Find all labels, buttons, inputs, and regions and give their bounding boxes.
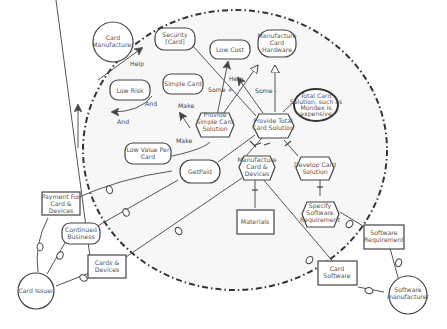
svg-text:Devices: Devices bbox=[95, 266, 119, 273]
svg-text:Manufacturer: Manufacturer bbox=[92, 41, 134, 48]
svg-text:Card: Card bbox=[141, 153, 156, 160]
resource-cards-devices[interactable]: Cards & Devices bbox=[88, 255, 126, 278]
svg-text:Hardware: Hardware bbox=[262, 46, 292, 53]
link-label-help-1: Help bbox=[130, 60, 144, 68]
svg-text:Devices: Devices bbox=[49, 207, 73, 214]
svg-text:[Card]: [Card] bbox=[165, 38, 184, 45]
task-provide-total-card-solution[interactable]: Provide Total Card Solution bbox=[252, 114, 294, 138]
resource-card-software[interactable]: Card Software bbox=[318, 261, 357, 285]
svg-text:Card Solution: Card Solution bbox=[252, 124, 294, 131]
softgoal-simple-card[interactable]: Simple Card bbox=[163, 74, 203, 94]
svg-text:Card &: Card & bbox=[50, 200, 71, 207]
svg-text:Simple Card: Simple Card bbox=[164, 80, 202, 88]
link-label-and-1: And bbox=[145, 100, 157, 107]
svg-text:Card: Card bbox=[330, 265, 345, 272]
svg-text:Business: Business bbox=[67, 233, 94, 240]
link-label-help-2: Help bbox=[229, 75, 243, 83]
svg-text:Card Issuer: Card Issuer bbox=[19, 287, 54, 294]
task-develop-card-solution[interactable]: Develop Card Solution bbox=[294, 157, 336, 180]
svg-text:Card: Card bbox=[106, 34, 121, 41]
goal-getpaid[interactable]: GetPaid bbox=[180, 160, 220, 183]
svg-text:Card &: Card & bbox=[246, 163, 267, 170]
softgoal-low-risk[interactable]: Low Risk bbox=[110, 80, 150, 100]
svg-text:Software: Software bbox=[306, 209, 333, 216]
task-manufacture-card-devices[interactable]: Manufacture Card & Devices bbox=[238, 156, 277, 180]
svg-text:Manufacture: Manufacture bbox=[258, 32, 297, 39]
svg-text:Devices: Devices bbox=[245, 170, 269, 177]
svg-text:Provide Total: Provide Total bbox=[253, 117, 293, 124]
svg-text:Provide: Provide bbox=[204, 111, 227, 118]
svg-text:Software: Software bbox=[323, 272, 350, 279]
svg-text:manufacturer: manufacturer bbox=[387, 293, 430, 300]
resource-software-requirement[interactable]: Software Requirement bbox=[364, 225, 404, 249]
svg-text:Card: Card bbox=[270, 39, 285, 46]
actor-card-issuer[interactable]: Card Issuer bbox=[18, 273, 54, 309]
link-label-make-1: Make bbox=[178, 102, 194, 109]
actor-card-manufacturer[interactable]: Card Manufacturer bbox=[92, 22, 134, 62]
svg-text:Continued: Continued bbox=[65, 226, 97, 233]
task-specify-software-requirement[interactable]: Specify Software Requirement bbox=[300, 202, 340, 227]
svg-text:expensive: expensive bbox=[300, 110, 332, 118]
link-label-and-2: And bbox=[117, 118, 129, 125]
svg-text:GetPaid: GetPaid bbox=[188, 168, 212, 175]
svg-text:Low Value Per: Low Value Per bbox=[127, 146, 170, 153]
softgoal-low-cost[interactable]: Low Cost bbox=[210, 40, 250, 59]
link-label-some-plus: Some + bbox=[208, 86, 233, 93]
svg-text:Requirement: Requirement bbox=[364, 236, 404, 244]
link-label-some-minus: Some - bbox=[255, 87, 277, 94]
istar-diagram: Card Manufacturer Card Issuer Software m… bbox=[0, 0, 447, 329]
link-label-make-2: Make bbox=[176, 137, 192, 144]
actor-software-manufacturer[interactable]: Software manufacturer bbox=[387, 276, 430, 314]
task-provide-simple-card-solution[interactable]: Provide Simple Card Solution bbox=[196, 111, 234, 137]
resource-materials[interactable]: Materials bbox=[237, 210, 274, 234]
softgoal-security[interactable]: Security [Card] bbox=[155, 28, 195, 50]
svg-text:Low Cost: Low Cost bbox=[216, 46, 244, 53]
resource-payment[interactable]: Payment For Card & Devices bbox=[42, 192, 81, 215]
svg-text:Materials: Materials bbox=[241, 218, 269, 225]
svg-text:Requirement: Requirement bbox=[300, 216, 340, 224]
svg-text:Software: Software bbox=[370, 229, 397, 236]
svg-text:Low Risk: Low Risk bbox=[117, 87, 144, 94]
softgoal-manufacture-card-hardware[interactable]: Manufacture Card Hardware bbox=[258, 30, 297, 57]
softgoal-low-value-per-card[interactable]: Low Value Per Card bbox=[125, 143, 171, 164]
softgoal-continued-business[interactable]: Continued Business bbox=[62, 223, 100, 244]
svg-text:Cards &: Cards & bbox=[95, 259, 120, 266]
svg-text:Software: Software bbox=[394, 286, 421, 293]
svg-text:Manufacture: Manufacture bbox=[238, 156, 277, 163]
svg-text:Solution: Solution bbox=[202, 125, 227, 132]
svg-text:Solution: Solution bbox=[302, 168, 327, 175]
